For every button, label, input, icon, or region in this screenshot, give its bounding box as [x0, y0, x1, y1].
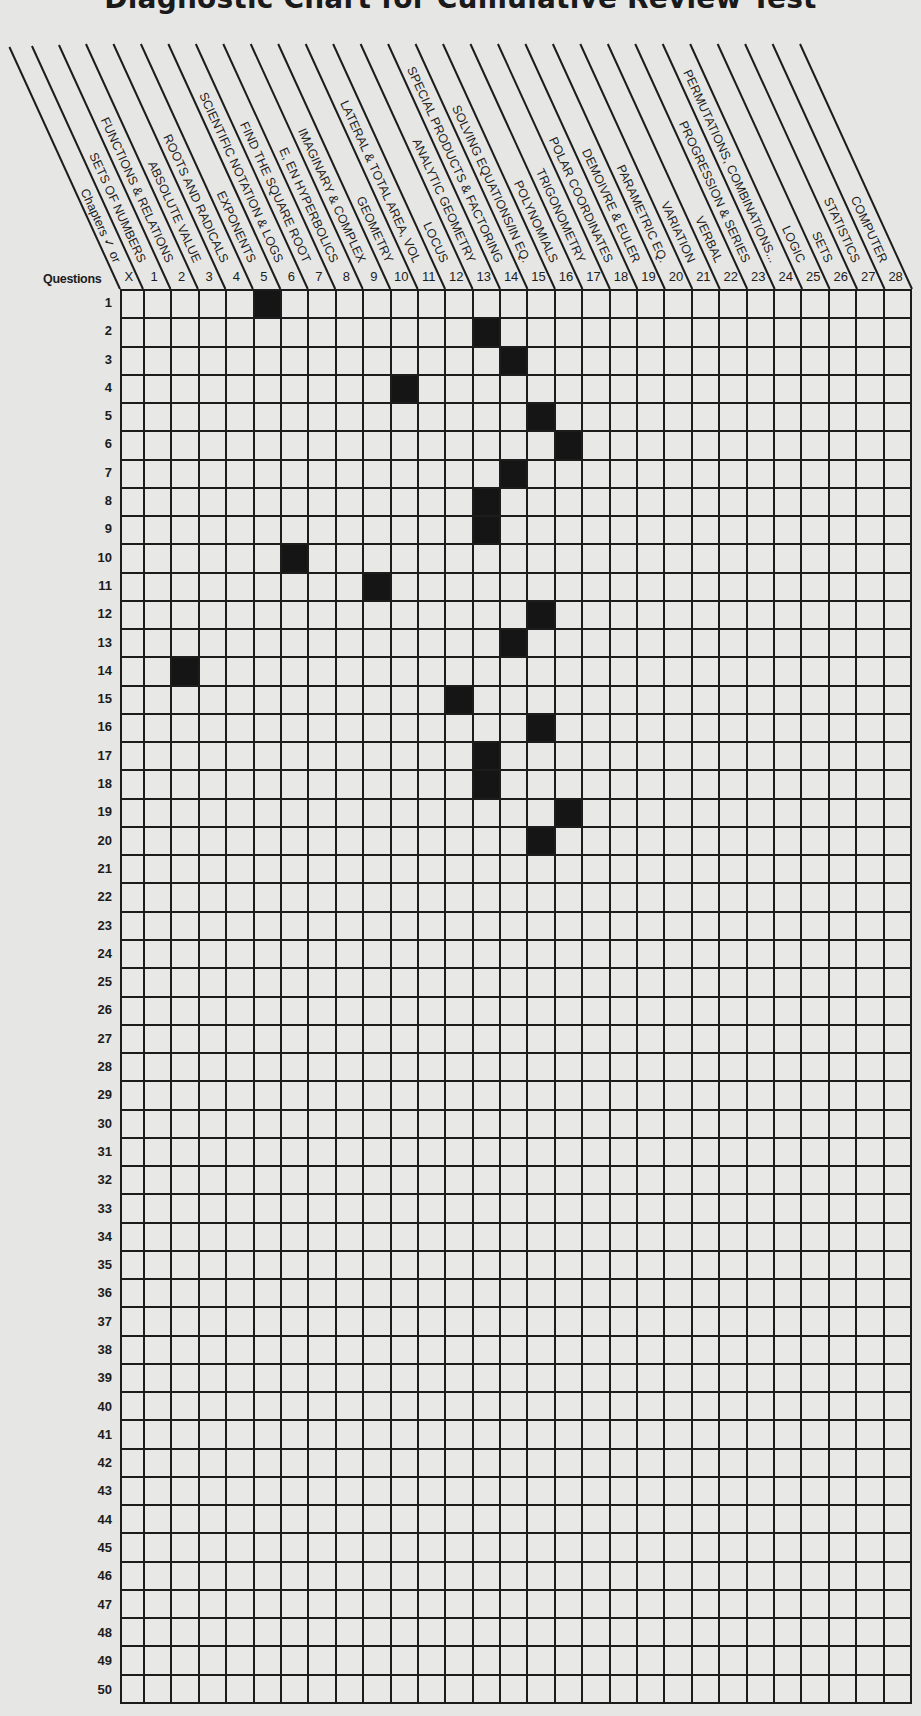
- grid-cell[interactable]: [200, 1195, 227, 1223]
- grid-cell[interactable]: [885, 489, 912, 517]
- grid-cell[interactable]: [528, 1591, 555, 1619]
- grid-cell[interactable]: [775, 687, 802, 715]
- grid-cell[interactable]: [830, 348, 857, 376]
- grid-cell[interactable]: [611, 461, 638, 489]
- grid-cell[interactable]: [474, 1591, 501, 1619]
- grid-cell[interactable]: [748, 1195, 775, 1223]
- grid-cell[interactable]: [638, 1619, 665, 1647]
- grid-cell[interactable]: [172, 630, 199, 658]
- grid-cell[interactable]: [227, 1591, 254, 1619]
- grid-cell[interactable]: [501, 1393, 528, 1421]
- grid-cell[interactable]: [583, 998, 610, 1026]
- grid-cell[interactable]: [337, 1591, 364, 1619]
- grid-cell[interactable]: [830, 941, 857, 969]
- grid-cell[interactable]: [830, 1280, 857, 1308]
- grid-cell[interactable]: [337, 376, 364, 404]
- grid-cell[interactable]: [611, 1619, 638, 1647]
- grid-cell[interactable]: [802, 998, 829, 1026]
- grid-cell[interactable]: [857, 1619, 884, 1647]
- grid-cell[interactable]: [720, 1054, 747, 1082]
- grid-cell[interactable]: [583, 1506, 610, 1534]
- grid-cell[interactable]: [364, 715, 391, 743]
- grid-cell[interactable]: [748, 828, 775, 856]
- grid-cell[interactable]: [309, 1647, 336, 1675]
- grid-cell[interactable]: [665, 545, 692, 573]
- grid-cell[interactable]: [583, 1167, 610, 1195]
- grid-cell[interactable]: [227, 630, 254, 658]
- grid-cell[interactable]: [556, 376, 583, 404]
- grid-cell[interactable]: [200, 319, 227, 347]
- grid-cell[interactable]: [446, 1591, 473, 1619]
- grid-cell[interactable]: [419, 348, 446, 376]
- grid-cell[interactable]: [172, 1026, 199, 1054]
- grid-cell[interactable]: [446, 348, 473, 376]
- grid-cell[interactable]: [364, 828, 391, 856]
- grid-cell[interactable]: [857, 630, 884, 658]
- grid-cell[interactable]: [309, 545, 336, 573]
- grid-cell[interactable]: [611, 658, 638, 686]
- grid-cell[interactable]: [282, 1195, 309, 1223]
- grid-cell[interactable]: [748, 1054, 775, 1082]
- grid-cell[interactable]: [419, 941, 446, 969]
- grid-cell[interactable]: [611, 687, 638, 715]
- grid-cell[interactable]: [638, 913, 665, 941]
- grid-cell[interactable]: [255, 348, 282, 376]
- grid-cell[interactable]: [720, 1534, 747, 1562]
- grid-cell[interactable]: [857, 1647, 884, 1675]
- grid-cell[interactable]: [364, 1195, 391, 1223]
- grid-cell[interactable]: [419, 1450, 446, 1478]
- grid-cell[interactable]: [720, 1195, 747, 1223]
- grid-cell[interactable]: [392, 743, 419, 771]
- grid-cell[interactable]: [200, 1167, 227, 1195]
- grid-cell[interactable]: [611, 630, 638, 658]
- grid-cell[interactable]: [748, 630, 775, 658]
- grid-cell[interactable]: [885, 461, 912, 489]
- grid-cell[interactable]: [337, 1563, 364, 1591]
- grid-cell[interactable]: [392, 348, 419, 376]
- grid-cell[interactable]: [309, 1224, 336, 1252]
- grid-cell[interactable]: [830, 913, 857, 941]
- grid-cell[interactable]: [145, 602, 172, 630]
- grid-cell[interactable]: [720, 1139, 747, 1167]
- grid-cell[interactable]: [528, 489, 555, 517]
- grid-cell[interactable]: [885, 941, 912, 969]
- grid-cell[interactable]: [775, 856, 802, 884]
- grid-cell[interactable]: [122, 517, 145, 545]
- grid-cell[interactable]: [227, 404, 254, 432]
- grid-cell[interactable]: [474, 913, 501, 941]
- grid-cell[interactable]: [857, 941, 884, 969]
- grid-cell[interactable]: [392, 969, 419, 997]
- grid-cell[interactable]: [255, 715, 282, 743]
- grid-cell[interactable]: [693, 743, 720, 771]
- grid-cell[interactable]: [200, 1280, 227, 1308]
- grid-cell[interactable]: [857, 998, 884, 1026]
- grid-cell[interactable]: [446, 743, 473, 771]
- grid-cell[interactable]: [392, 432, 419, 460]
- grid-cell[interactable]: [255, 489, 282, 517]
- grid-cell[interactable]: [611, 969, 638, 997]
- grid-cell[interactable]: [122, 376, 145, 404]
- grid-cell[interactable]: [857, 1450, 884, 1478]
- grid-cell[interactable]: [775, 1026, 802, 1054]
- grid-cell[interactable]: [419, 432, 446, 460]
- grid-cell[interactable]: [122, 715, 145, 743]
- grid-cell[interactable]: [282, 771, 309, 799]
- grid-cell[interactable]: [830, 884, 857, 912]
- grid-cell[interactable]: [255, 1026, 282, 1054]
- grid-cell[interactable]: [309, 319, 336, 347]
- grid-cell[interactable]: [200, 998, 227, 1026]
- grid-cell[interactable]: [255, 404, 282, 432]
- grid-cell[interactable]: [775, 800, 802, 828]
- grid-cell[interactable]: [638, 1139, 665, 1167]
- grid-cell[interactable]: [830, 1647, 857, 1675]
- grid-cell[interactable]: [172, 1450, 199, 1478]
- grid-cell[interactable]: [802, 404, 829, 432]
- grid-cell[interactable]: [282, 1224, 309, 1252]
- grid-cell[interactable]: [364, 1308, 391, 1336]
- grid-cell[interactable]: [638, 404, 665, 432]
- grid-cell[interactable]: [501, 1676, 528, 1704]
- grid-cell[interactable]: [309, 1534, 336, 1562]
- grid-cell[interactable]: [392, 1365, 419, 1393]
- grid-cell[interactable]: [857, 1478, 884, 1506]
- grid-cell[interactable]: [501, 969, 528, 997]
